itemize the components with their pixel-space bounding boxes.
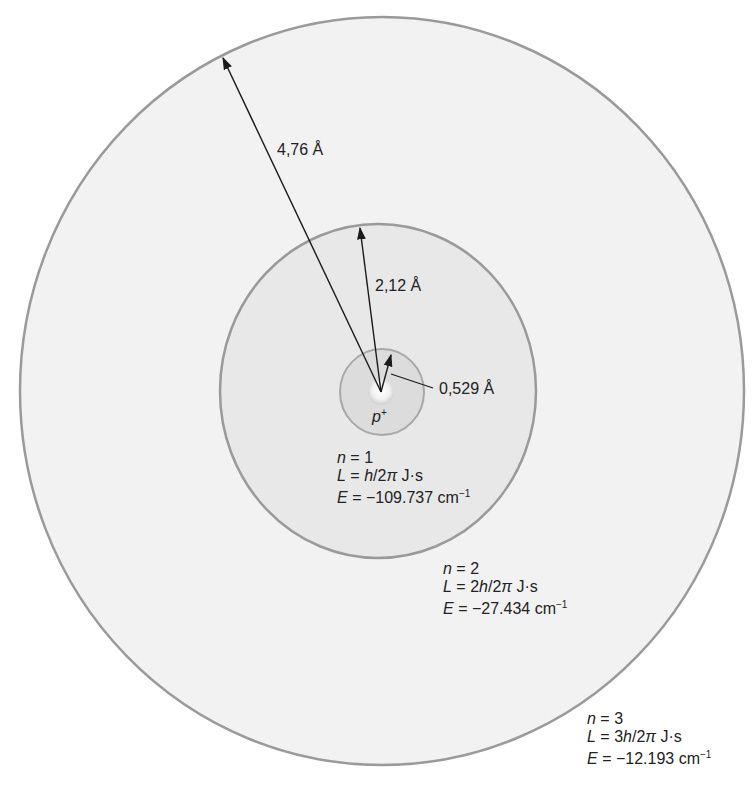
state-n2-block: n = 2 L = 2h/2π J·s E = −27.434 cm−1	[443, 560, 567, 614]
state-n1-block: n = 1 L = h/2π J·s E = −109.737 cm−1	[337, 449, 470, 503]
state-n3-quantum-number: n = 3	[587, 710, 711, 728]
state-n3-energy: E = −12.193 cm−1	[587, 746, 711, 764]
state-n2-quantum-number: n = 2	[443, 560, 567, 578]
state-n3-angular-momentum: L = 3h/2π J·s	[587, 728, 711, 746]
state-n2-energy: E = −27.434 cm−1	[443, 596, 567, 614]
bohr-atom-diagram	[0, 0, 754, 791]
radius-label-r2: 2,12 Å	[375, 276, 421, 296]
state-n1-quantum-number: n = 1	[337, 449, 470, 467]
nucleus-symbol: p	[372, 408, 381, 425]
radius-label-r1: 0,529 Å	[439, 379, 494, 399]
nucleus-label: p+	[372, 403, 387, 427]
nucleus-charge: +	[381, 407, 387, 418]
state-n1-energy: E = −109.737 cm−1	[337, 485, 470, 503]
state-n1-angular-momentum: L = h/2π J·s	[337, 467, 470, 485]
state-n3-block: n = 3 L = 3h/2π J·s E = −12.193 cm−1	[587, 710, 711, 764]
radius-label-r3: 4,76 Å	[277, 140, 323, 160]
state-n2-angular-momentum: L = 2h/2π J·s	[443, 578, 567, 596]
